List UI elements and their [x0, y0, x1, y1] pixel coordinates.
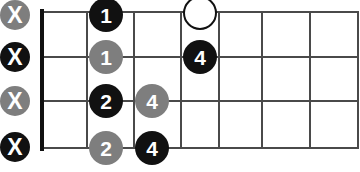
- fret-line-2: [133, 11, 135, 149]
- fret-line-1: [86, 11, 88, 149]
- finger-marker-3[interactable]: 1: [89, 40, 123, 74]
- finger-marker-7[interactable]: 2: [89, 131, 123, 165]
- finger-marker-1[interactable]: 1: [89, 0, 123, 32]
- mute-marker-2[interactable]: X: [0, 42, 30, 72]
- fret-line-5: [261, 11, 263, 149]
- finger-marker-8[interactable]: 4: [135, 131, 169, 165]
- finger-marker-2[interactable]: [183, 0, 217, 30]
- fret-line-3: [180, 11, 182, 149]
- finger-marker-5[interactable]: 2: [89, 84, 123, 118]
- chord-diagram: XXXX1142424: [0, 0, 360, 172]
- mute-marker-3[interactable]: X: [0, 86, 30, 116]
- fret-line-4: [218, 11, 220, 149]
- finger-marker-6[interactable]: 4: [135, 84, 169, 118]
- fret-line-6: [309, 11, 311, 149]
- mute-marker-4[interactable]: X: [0, 132, 30, 162]
- nut: [40, 9, 44, 151]
- finger-marker-4[interactable]: 4: [183, 40, 217, 74]
- fret-line-7: [357, 11, 359, 149]
- mute-marker-1[interactable]: X: [0, 0, 30, 30]
